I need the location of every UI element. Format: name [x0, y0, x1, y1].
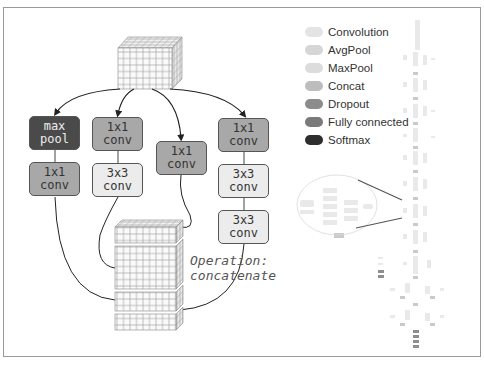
legend-label: Softmax [328, 134, 370, 146]
avgpool-swatch-icon [305, 45, 323, 55]
legend-label: Dropout [328, 98, 369, 110]
branch1-conv1x1-box: 1x1 conv [29, 162, 80, 196]
legend: Convolution AvgPool MaxPool Concat Dropo… [305, 23, 409, 149]
concatenate-annotation: Operation: concatenate [190, 253, 276, 283]
legend-item-dropout: Dropout [305, 95, 409, 113]
maxpool-box: max pool [29, 116, 80, 150]
legend-item-convolution: Convolution [305, 23, 409, 41]
branch4-conv3x3-box-b: 3x3 conv [218, 210, 269, 244]
legend-label: MaxPool [328, 62, 373, 74]
fully-connected-swatch-icon [305, 117, 323, 127]
legend-item-maxpool: MaxPool [305, 59, 409, 77]
zoom-lines [356, 180, 402, 228]
legend-item-concat: Concat [305, 77, 409, 95]
legend-label: AvgPool [328, 44, 371, 56]
legend-label: Fully connected [328, 116, 409, 128]
branch4-conv1x1-box: 1x1 conv [218, 118, 269, 152]
legend-label: Concat [328, 80, 364, 92]
branch-arrows [56, 89, 244, 138]
connectors [55, 150, 244, 210]
dropout-swatch-icon [305, 99, 323, 109]
legend-label: Convolution [328, 26, 389, 38]
branch2-conv1x1-box: 1x1 conv [92, 117, 143, 151]
branch4-conv3x3-box-a: 3x3 conv [218, 164, 269, 198]
input-tensor-cube [118, 37, 182, 89]
legend-item-softmax: Softmax [305, 131, 409, 149]
convolution-swatch-icon [305, 27, 323, 37]
concat-swatch-icon [305, 81, 323, 91]
branch3-conv1x1-box: 1x1 conv [156, 141, 207, 175]
maxpool-swatch-icon [305, 63, 323, 73]
legend-item-fully-connected: Fully connected [305, 113, 409, 131]
softmax-swatch-icon [305, 135, 323, 145]
legend-item-avgpool: AvgPool [305, 41, 409, 59]
branch2-conv3x3-box: 3x3 conv [92, 163, 143, 197]
concatenated-tensor-stack [115, 220, 183, 330]
